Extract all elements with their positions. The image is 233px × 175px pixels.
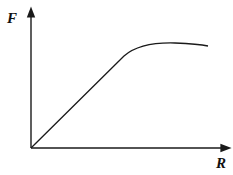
x-axis-label: R (215, 155, 226, 171)
y-axis-label: F (6, 10, 17, 26)
force-vs-r-diagram: F R (0, 0, 233, 175)
f-curve (31, 43, 208, 148)
